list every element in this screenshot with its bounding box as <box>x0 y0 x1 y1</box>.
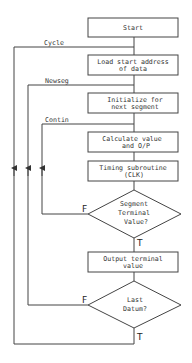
cycle-label: Cycle <box>44 39 64 47</box>
newseg-label: Newseg <box>45 77 69 85</box>
start-text: Start <box>123 24 143 32</box>
timing-text-2: (CLK) <box>124 171 144 179</box>
segment-text-3: Value? <box>124 218 148 226</box>
contin-label: Contin <box>45 116 69 124</box>
init-text-2: next segment <box>111 103 159 111</box>
last-text-2: Datum? <box>123 305 147 313</box>
segment-text-2: Terminal <box>118 209 150 217</box>
segment-text-1: Segment <box>120 200 148 208</box>
last-false-label: F <box>82 295 87 305</box>
load-text-2: of data <box>119 65 147 73</box>
last-text-1: Last <box>127 296 143 304</box>
segment-false-label: F <box>82 204 87 214</box>
calc-text-2: and O/P <box>122 142 150 150</box>
output-text-2: value <box>123 262 143 270</box>
last-true-label: T <box>136 332 143 342</box>
flowchart: Cycle Newseg Contin Start Load start add… <box>0 0 192 363</box>
segment-true-label: T <box>136 238 143 248</box>
